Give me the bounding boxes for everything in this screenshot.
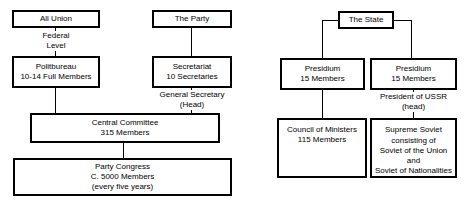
box-supreme-soviet-line5: Soviet of Nationalities	[375, 166, 452, 176]
connector-the-party-to-secretariat	[191, 27, 192, 56]
box-secretariat-line1: Secretariat	[173, 62, 212, 72]
box-presidium-left-line1: Presidium	[305, 64, 341, 74]
box-presidium-left[interactable]: Presidium 15 Members	[280, 58, 365, 90]
label-federal-level: Federal Level	[30, 31, 82, 51]
box-supreme-soviet-line3: Soviet of the Union	[380, 146, 448, 156]
box-party-congress-line3: (every five years)	[92, 182, 153, 192]
label-president-of-ussr-line2: (head)	[370, 102, 457, 112]
box-presidium-left-line2: 15 Members	[300, 74, 344, 84]
box-supreme-soviet-line1: Supreme Soviet	[385, 125, 442, 135]
label-general-secretary: General Secretary (Head)	[152, 90, 232, 110]
label-federal-level-line1: Federal	[30, 31, 82, 41]
box-the-party-line1: The Party	[175, 14, 210, 24]
connector-state-bracket-right-horizontal	[392, 20, 412, 21]
box-all-union[interactable]: All Union	[12, 10, 100, 28]
box-council-of-ministers-line2: 115 Members	[298, 135, 346, 145]
box-party-congress-line1: Party Congress	[95, 162, 150, 172]
label-president-of-ussr-line1: President of USSR	[370, 92, 457, 102]
box-central-committee-line2: 315 Members	[101, 128, 150, 138]
connector-state-to-presidium-left	[322, 20, 323, 58]
connector-politbureau-to-central-committee	[55, 88, 56, 114]
box-the-state-line1: The State	[349, 15, 384, 25]
box-party-congress[interactable]: Party Congress C. 5000 Members (every fi…	[13, 158, 232, 196]
box-central-committee[interactable]: Central Committee 315 Members	[30, 113, 220, 143]
box-supreme-soviet-line4: and	[407, 156, 420, 166]
box-supreme-soviet-line2: consisting of	[391, 136, 435, 146]
box-secretariat[interactable]: Secretariat 10 Secretaries	[152, 56, 232, 88]
label-federal-level-line2: Level	[30, 41, 82, 51]
box-politbureau-line2: 10-14 Full Members	[20, 72, 91, 82]
connector-central-committee-to-party-congress	[123, 143, 124, 159]
label-president-of-ussr: President of USSR (head)	[370, 92, 457, 112]
label-general-secretary-line1: General Secretary	[152, 90, 232, 100]
box-presidium-right[interactable]: Presidium 15 Members	[370, 58, 457, 90]
box-the-state[interactable]: The State	[338, 11, 394, 29]
box-central-committee-line1: Central Committee	[92, 118, 159, 128]
org-chart-diagram: All Union Federal Level The Party Politb…	[0, 0, 470, 209]
box-all-union-line1: All Union	[40, 14, 72, 24]
box-supreme-soviet[interactable]: Supreme Soviet consisting of Soviet of t…	[370, 118, 457, 178]
box-politbureau-line1: Politbureau	[36, 62, 76, 72]
connector-presidium-left-to-council-of-ministers	[322, 90, 323, 119]
box-council-of-ministers-line1: Council of Ministers	[287, 125, 357, 135]
box-party-congress-line2: C. 5000 Members	[91, 172, 155, 182]
box-presidium-right-line1: Presidium	[396, 64, 432, 74]
label-general-secretary-line2: (Head)	[152, 100, 232, 110]
box-politbureau[interactable]: Politbureau 10-14 Full Members	[12, 56, 100, 88]
box-council-of-ministers[interactable]: Council of Ministers 115 Members	[277, 118, 367, 178]
connector-state-to-presidium-right	[411, 20, 412, 58]
box-presidium-right-line2: 15 Members	[391, 74, 435, 84]
box-the-party[interactable]: The Party	[152, 10, 232, 28]
box-secretariat-line2: 10 Secretaries	[166, 72, 218, 82]
